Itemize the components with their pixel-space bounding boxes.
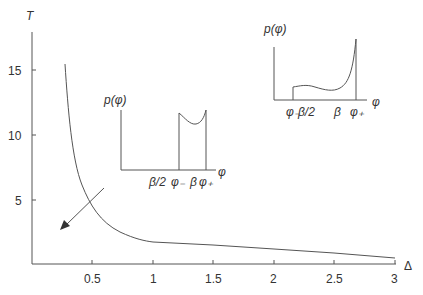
- x-tick-1: 1: [150, 272, 157, 286]
- inset-2-xlabel: φ: [372, 95, 380, 109]
- y-tick-15: 15: [8, 64, 22, 78]
- x-tick-3: 3: [391, 272, 398, 286]
- inset-1-tick-beta: β: [189, 175, 197, 189]
- inset-2-tick-beta-half: β/2: [297, 105, 315, 119]
- inset-2-tick-phi-plus: φ₊: [350, 105, 365, 119]
- main-axes: [32, 32, 396, 264]
- inset-2-tick-beta: β: [333, 105, 341, 119]
- inset-1-tick-phi-minus: φ₋: [171, 175, 186, 189]
- inset-1-ylabel: p(φ): [103, 93, 127, 107]
- arrow-annotation: [60, 188, 104, 230]
- inset-2: [274, 39, 367, 100]
- x-tick-2-label: 2: [270, 272, 277, 286]
- y-tick-5: 5: [15, 194, 22, 208]
- x-axis-label: Δ: [404, 259, 412, 273]
- inset-2-ylabel: p(φ): [263, 22, 287, 36]
- x-tick-1.5: 1.5: [205, 272, 222, 286]
- x-tick-2.5: 2.5: [326, 272, 343, 286]
- y-axis-label: T: [26, 9, 35, 23]
- y-tick-10: 10: [8, 129, 22, 143]
- chart: T Δ 15 10 5 0.5 1 1.5 2 2.5 3 p(φ) φ β/2…: [0, 0, 423, 295]
- inset-1: [121, 110, 216, 170]
- inset-1-tick-phi-plus: φ₊: [199, 175, 214, 189]
- x-tick-0.5: 0.5: [84, 272, 101, 286]
- inset-1-xlabel: φ: [218, 165, 226, 179]
- inset-1-tick-beta-half: β/2: [148, 175, 166, 189]
